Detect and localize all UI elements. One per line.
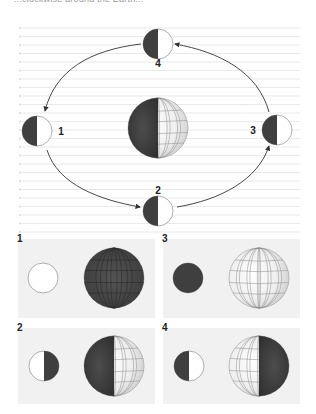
ruled-line-dot — [19, 53, 21, 55]
ruled-line-dot — [19, 146, 21, 148]
panel-earth-view — [84, 248, 144, 308]
ruled-line-dot — [19, 27, 21, 29]
panel-earth-view — [229, 336, 289, 396]
panel-earth-view — [229, 248, 289, 308]
ruled-line-dot — [19, 163, 21, 165]
center-earth-globe — [128, 98, 188, 158]
ruled-line-dot — [19, 129, 21, 131]
orbit-position-label: 2 — [155, 185, 161, 196]
ruled-line-dot — [19, 36, 21, 38]
orbit-position-label: 4 — [155, 58, 161, 69]
orbit-arc-1-to-2 — [47, 150, 140, 207]
panel-label: 2 — [17, 322, 23, 333]
ruled-line-dot — [19, 197, 21, 199]
ruled-line-dot — [19, 104, 21, 106]
orbit-moon-1 — [22, 116, 52, 146]
orbit-position-label: 3 — [250, 125, 256, 136]
orbit-moon-4 — [143, 29, 173, 59]
phase-panel-2: 2 — [17, 322, 155, 404]
phase-panel-3: 3 — [162, 233, 300, 318]
ruled-line-dot — [19, 70, 21, 72]
panel-label: 4 — [162, 322, 168, 333]
ruled-line-dot — [19, 95, 21, 97]
ruled-line-dot — [19, 189, 21, 191]
ruled-line-dot — [19, 214, 21, 216]
ruled-line-dot — [19, 206, 21, 208]
orbit-arc-4-to-1 — [45, 44, 141, 111]
ruled-line-dot — [19, 78, 21, 80]
panel-moon-view — [29, 351, 59, 381]
ruled-line-dot — [19, 87, 21, 89]
ruled-line-dot — [19, 121, 21, 123]
ruled-line-dot — [19, 155, 21, 157]
orbit-moon-3 — [262, 115, 292, 145]
ruled-line-dot — [19, 180, 21, 182]
moon-orbit-diagram: 1234 1324 — [0, 0, 316, 414]
ruled-line-dot — [19, 172, 21, 174]
orbit-arc-3-to-4 — [175, 44, 269, 112]
ruled-line-dot — [19, 223, 21, 225]
panel-earth-view — [84, 336, 144, 396]
ruled-line-dot — [19, 112, 21, 114]
ruled-line-dot — [19, 61, 21, 63]
phase-panel-1: 1 — [17, 233, 155, 318]
ruled-line-dot — [19, 44, 21, 46]
phase-panel-4: 4 — [162, 322, 300, 404]
panel-moon-view — [174, 351, 204, 381]
panel-label: 1 — [17, 233, 23, 244]
ruled-line-dot — [19, 138, 21, 140]
orbit-moon-2 — [143, 196, 173, 226]
panel-label: 3 — [162, 233, 168, 244]
panel-moon-view — [28, 263, 58, 293]
orbit-position-label: 1 — [58, 126, 64, 137]
panel-moon-view — [173, 263, 203, 293]
